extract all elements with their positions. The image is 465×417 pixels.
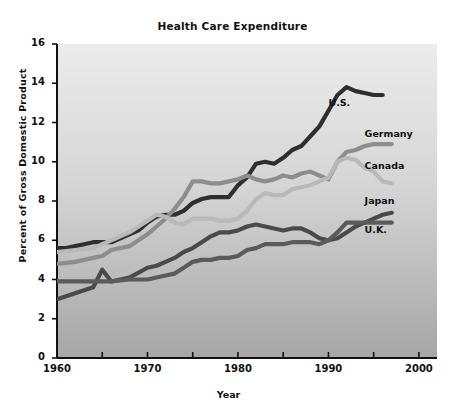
series-label-uk: U.K. bbox=[365, 224, 387, 235]
y-tick-label: 4 bbox=[19, 273, 45, 284]
y-tick-label: 14 bbox=[19, 76, 45, 87]
x-tick-label: 1980 bbox=[216, 363, 260, 374]
series-label-us: U.S. bbox=[328, 97, 350, 108]
plot-area bbox=[0, 0, 465, 417]
x-tick-label: 1990 bbox=[306, 363, 350, 374]
y-tick-label: 0 bbox=[19, 351, 45, 362]
x-axis-title: Year bbox=[57, 389, 400, 400]
series-label-japan: Japan bbox=[365, 195, 395, 206]
y-tick-label: 8 bbox=[19, 194, 45, 205]
chart-title: Health Care Expenditure bbox=[0, 20, 465, 32]
y-tick-label: 2 bbox=[19, 312, 45, 323]
x-tick-label: 2000 bbox=[397, 363, 441, 374]
y-tick-label: 12 bbox=[19, 116, 45, 127]
series-label-germany: Germany bbox=[365, 128, 413, 139]
x-tick-label: 1960 bbox=[35, 363, 79, 374]
series-label-canada: Canada bbox=[365, 160, 405, 171]
chart-container: Health Care Expenditure Percent of Gross… bbox=[0, 0, 465, 417]
y-tick-label: 10 bbox=[19, 155, 45, 166]
y-tick-label: 16 bbox=[19, 37, 45, 48]
x-tick-label: 1970 bbox=[125, 363, 169, 374]
y-tick-label: 6 bbox=[19, 233, 45, 244]
